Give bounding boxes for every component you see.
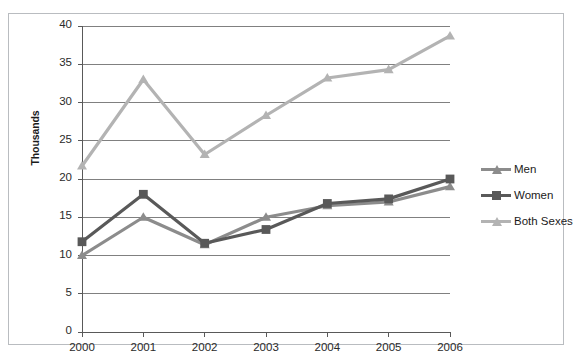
data-point-marker — [384, 194, 393, 203]
data-point-marker — [323, 199, 332, 208]
legend-label: Women — [514, 189, 553, 201]
legend-swatch-icon — [481, 214, 511, 228]
legend-item-both-sexes[interactable]: Both Sexes — [481, 208, 573, 234]
legend-swatch-icon — [481, 188, 511, 202]
data-point-marker — [262, 225, 271, 234]
data-point-marker — [446, 175, 455, 184]
chart-legend: MenWomenBoth Sexes — [481, 156, 573, 234]
legend-triangle-marker-icon — [492, 217, 502, 226]
data-point-marker — [445, 31, 455, 40]
legend-label: Men — [514, 163, 536, 175]
legend-swatch-icon — [481, 162, 511, 176]
data-point-marker — [138, 212, 148, 221]
legend-label: Both Sexes — [514, 215, 573, 227]
legend-square-marker-icon — [492, 191, 501, 200]
data-point-marker — [138, 75, 148, 84]
legend-item-men[interactable]: Men — [481, 156, 573, 182]
chart-frame: Thousands 0510152025303540 2000200120022… — [8, 13, 564, 345]
series-line-both-sexes — [82, 36, 450, 166]
data-point-marker — [200, 239, 209, 248]
legend-triangle-marker-icon — [492, 165, 502, 174]
data-point-marker — [78, 237, 87, 246]
chart-plot-area: Thousands 0510152025303540 2000200120022… — [9, 14, 565, 346]
data-point-marker — [139, 190, 148, 199]
legend-item-women[interactable]: Women — [481, 182, 573, 208]
